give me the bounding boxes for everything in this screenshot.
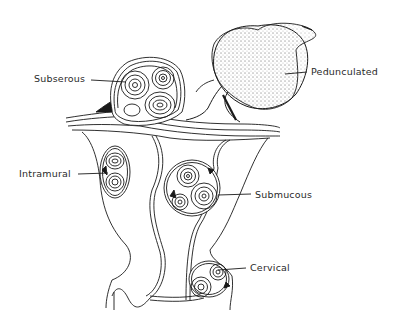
cervical-fibroid [189,261,230,297]
uterus-illustration [0,0,396,328]
label-cervical: Cervical [250,263,290,273]
label-pedunculated: Pedunculated [311,67,378,77]
label-submucous: Submucous [255,190,312,200]
submucous-fibroid [164,160,220,216]
fibroid-diagram: Subserous Pedunculated Intramural Submuc… [0,0,396,328]
intramural-fibroid [100,146,130,198]
label-subserous: Subserous [34,74,85,84]
label-intramural: Intramural [19,169,71,179]
subserous-fibroid [111,57,185,125]
